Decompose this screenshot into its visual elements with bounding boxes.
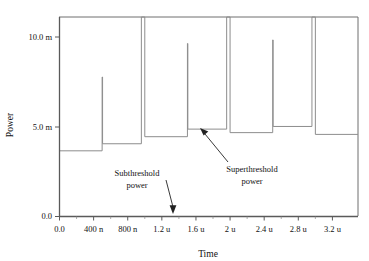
y-tick-label-5m: 5.0 m — [33, 122, 53, 132]
chart-figure: 10.0 m 5.0 m 0.0 Power 0.0400 n800 n1.2 … — [0, 0, 369, 261]
x-tick-label-6: 2.4 u — [256, 224, 274, 234]
x-tick-label-8: 3.2 u — [324, 224, 342, 234]
power-vs-time-chart: 10.0 m 5.0 m 0.0 Power 0.0400 n800 n1.2 … — [0, 0, 369, 261]
x-tick-label-7: 2.8 u — [290, 224, 308, 234]
x-tick-label-1: 400 n — [84, 224, 104, 234]
y-axis-title: Power — [5, 112, 15, 137]
y-axis: 10.0 m 5.0 m 0.0 Power — [5, 17, 60, 221]
superthreshold-label-line1: Superthreshold — [226, 164, 278, 174]
x-axis-title: Time — [198, 249, 218, 259]
x-tick-label-3: 1.2 u — [153, 224, 171, 234]
series-polyline — [60, 17, 359, 151]
x-tick-label-5: 2 u — [225, 224, 236, 234]
subthreshold-label-line2: power — [126, 180, 147, 190]
x-axis: 0.0400 n800 n1.2 u1.6 u2 u2.4 u2.8 u3.2 … — [54, 217, 358, 260]
annotation-subthreshold: Subthreshold power — [115, 168, 177, 214]
subthreshold-arrow-line — [166, 180, 173, 207]
superthreshold-label-line2: power — [241, 176, 262, 186]
y-tick-label-10m: 10.0 m — [28, 32, 52, 42]
plot-frame — [59, 17, 358, 216]
x-tick-label-4: 1.6 u — [187, 224, 205, 234]
series-power — [60, 17, 359, 151]
annotation-superthreshold: Superthreshold power — [200, 128, 278, 186]
superthreshold-arrow-line — [205, 134, 228, 162]
x-tick-label-0: 0.0 — [54, 224, 65, 234]
subthreshold-label-line1: Subthreshold — [115, 168, 161, 178]
y-tick-label-0: 0.0 — [41, 211, 52, 221]
subthreshold-arrow-head — [170, 205, 177, 214]
x-tick-label-2: 800 n — [118, 224, 138, 234]
x-tick-labels: 0.0400 n800 n1.2 u1.6 u2 u2.4 u2.8 u3.2 … — [54, 224, 341, 234]
